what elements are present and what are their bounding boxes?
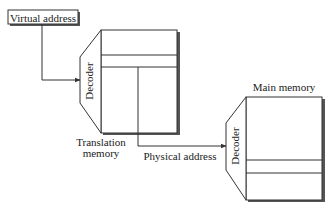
main-memory-label: Main memory xyxy=(253,81,316,93)
main-memory: Decoder xyxy=(226,97,325,202)
main-memory-decoder-label: Decoder xyxy=(229,127,241,165)
translation-memory-box xyxy=(101,30,177,133)
translation-memory-label-line2: memory xyxy=(83,147,120,159)
translation-decoder-label: Decoder xyxy=(83,62,95,100)
virtual-address-label: Virtual address xyxy=(10,12,76,24)
virtual-address-arrow xyxy=(42,24,80,80)
main-memory-box xyxy=(246,97,322,200)
physical-address-label: Physical address xyxy=(143,150,216,162)
address-translation-diagram: Virtual address Decoder Translation memo… xyxy=(0,0,333,212)
virtual-address-box: Virtual address xyxy=(8,10,80,26)
translation-memory: Decoder xyxy=(80,30,180,135)
